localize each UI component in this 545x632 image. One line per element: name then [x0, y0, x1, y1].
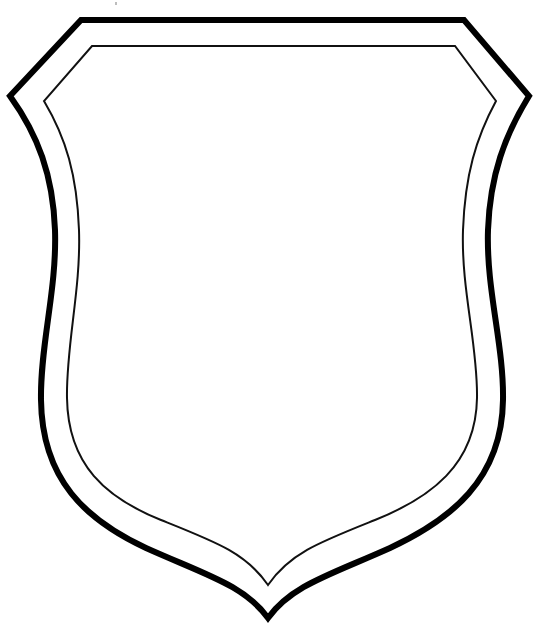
artifact-mark	[115, 2, 117, 5]
shield-icon	[0, 0, 545, 632]
shield-outer-border	[10, 20, 529, 618]
shield-figure	[0, 0, 545, 632]
